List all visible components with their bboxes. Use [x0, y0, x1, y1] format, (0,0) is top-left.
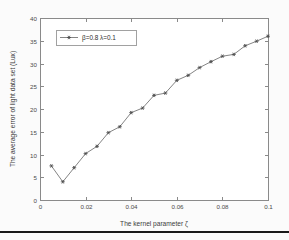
- y-axis-title: The average error of light data set (Lux…: [9, 51, 17, 167]
- y-tick-label: 20: [30, 106, 37, 113]
- y-tick-label: 40: [30, 15, 37, 22]
- x-tick-label: 0.06: [171, 203, 184, 210]
- y-tick-label: 30: [30, 61, 37, 68]
- x-tick-label: 0.02: [80, 203, 93, 210]
- y-tick-label: 25: [30, 83, 37, 90]
- chart-legend: β=0.8 λ=0.1: [57, 31, 137, 46]
- x-tick-label: 0.04: [125, 203, 138, 210]
- y-tick-label: 0: [34, 197, 38, 204]
- y-tick-label: 10: [30, 152, 37, 159]
- chart-canvas: 00.020.040.060.080.1 0510152025303540 β=…: [0, 0, 289, 240]
- footer-divider: [0, 231, 289, 233]
- x-tick-label: 0.1: [264, 203, 273, 210]
- x-tick-label: 0: [39, 203, 43, 210]
- y-tick-label: 5: [34, 174, 38, 181]
- x-tick-label: 0.08: [216, 203, 229, 210]
- y-tick-label: 15: [30, 129, 37, 136]
- figure-container: 00.020.040.060.080.1 0510152025303540 β=…: [0, 0, 289, 240]
- x-axis-title: The kernel parameter ζ: [120, 220, 188, 228]
- legend-entry-label: β=0.8 λ=0.1: [82, 34, 116, 42]
- y-tick-label: 35: [30, 38, 37, 45]
